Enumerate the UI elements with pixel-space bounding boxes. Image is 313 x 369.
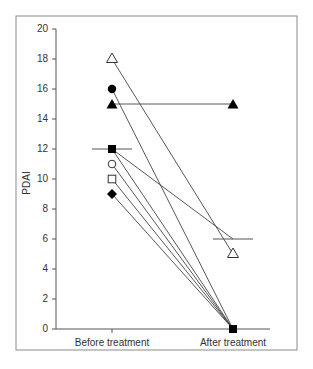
line-filled-circle bbox=[112, 89, 233, 329]
y-tick-label: 2 bbox=[42, 293, 48, 304]
y-tick-label: 20 bbox=[37, 23, 49, 34]
y-tick-label: 4 bbox=[42, 263, 48, 274]
markers-after bbox=[228, 99, 239, 333]
y-axis-label: PDAI bbox=[21, 171, 32, 194]
open-square-icon bbox=[108, 175, 116, 183]
y-tick-label: 8 bbox=[42, 203, 48, 214]
line-filled-diamond bbox=[112, 194, 233, 329]
patient-lines bbox=[112, 59, 233, 329]
markers-before bbox=[107, 53, 118, 199]
filled-square-icon bbox=[108, 145, 116, 153]
filled-square-icon bbox=[229, 325, 237, 333]
chart: 0 2 4 6 8 10 12 14 16 18 20 PDAI Before … bbox=[0, 0, 313, 369]
y-tick-label: 14 bbox=[37, 113, 49, 124]
chart-frame bbox=[16, 16, 297, 350]
y-ticks bbox=[52, 29, 56, 329]
x-label-after: After treatment bbox=[200, 337, 266, 348]
open-circle-icon bbox=[108, 160, 116, 168]
open-triangle-icon bbox=[228, 248, 239, 258]
y-tick-label: 6 bbox=[42, 233, 48, 244]
line-open-circle bbox=[112, 164, 233, 329]
y-tick-label: 16 bbox=[37, 83, 49, 94]
y-tick-label: 18 bbox=[37, 53, 49, 64]
y-tick-label: 0 bbox=[42, 323, 48, 334]
y-tick-label: 10 bbox=[37, 173, 49, 184]
filled-circle-icon bbox=[108, 85, 116, 93]
open-triangle-icon bbox=[107, 53, 118, 63]
y-tick-label: 12 bbox=[37, 143, 49, 154]
line-open-square bbox=[112, 179, 233, 329]
x-ticks bbox=[112, 329, 233, 333]
line-open-triangle bbox=[112, 59, 233, 254]
mean-connector-line bbox=[112, 149, 233, 239]
x-label-before: Before treatment bbox=[75, 337, 150, 348]
y-tick-labels: 0 2 4 6 8 10 12 14 16 18 20 bbox=[37, 23, 49, 334]
